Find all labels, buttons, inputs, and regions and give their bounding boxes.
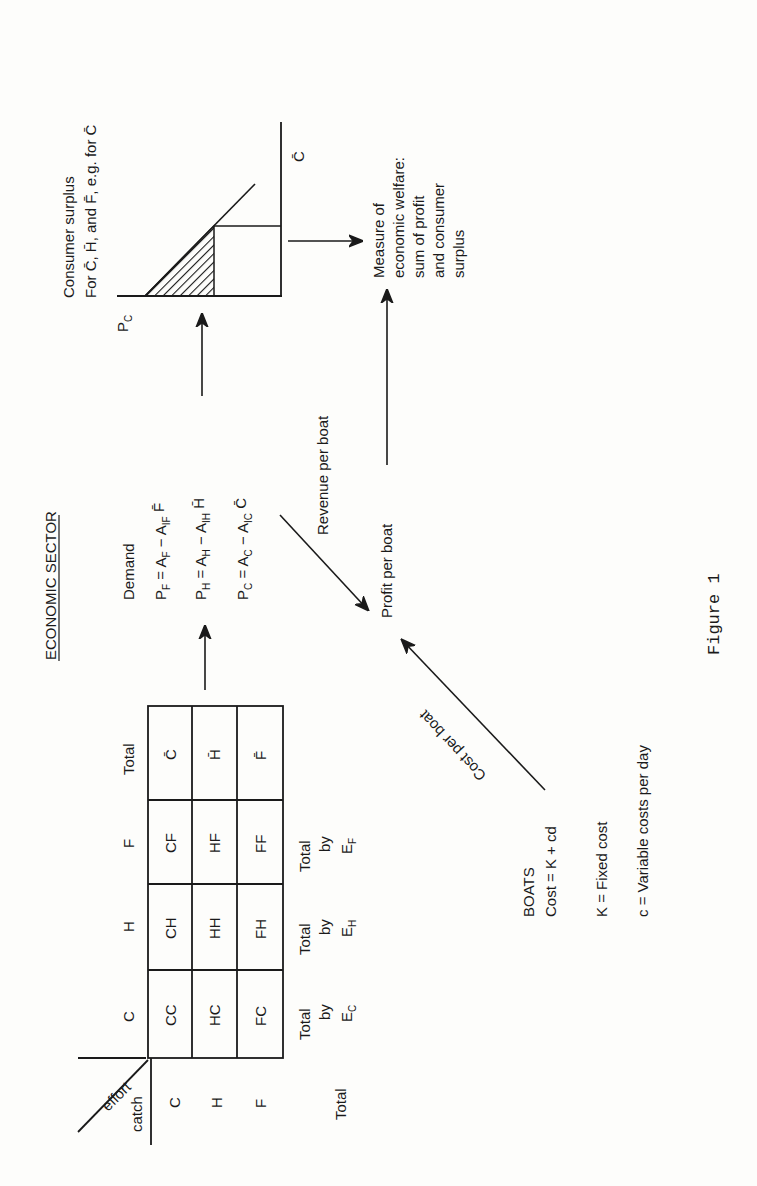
- svg-text:EC: EC: [338, 1005, 358, 1022]
- demand-eq-c: PC = AC − AIC C̄: [232, 498, 254, 600]
- quantity-axis-label: C̄: [290, 151, 307, 162]
- cell-c-total: C̄: [162, 749, 179, 760]
- cell-cf: CF: [162, 833, 179, 853]
- welfare-block: Measure of economic welfare: sum of prof…: [370, 157, 467, 278]
- svg-text:Measure of: Measure of: [370, 202, 387, 278]
- cost-label: Cost per boat: [415, 706, 489, 784]
- svg-text:surplus: surplus: [450, 230, 467, 278]
- variable-cost-def: c = Variable costs per day: [634, 745, 651, 917]
- boats-heading: BOATS: [520, 867, 537, 917]
- profit-label: Profit per boat: [378, 523, 395, 618]
- fixed-cost-def: K = Fixed cost: [593, 821, 610, 917]
- svg-text:Total: Total: [296, 840, 313, 872]
- price-axis-label: PC: [114, 315, 134, 332]
- cell-fh: FH: [252, 919, 269, 939]
- cell-hf: HF: [206, 833, 223, 853]
- catch-effort-matrix: effort catch C H F Total C H F CC CH CF …: [78, 706, 358, 1145]
- svg-text:by: by: [316, 1004, 333, 1020]
- svg-text:sum of profit: sum of profit: [410, 195, 427, 278]
- demand-eq-h: PH = AH − AIH H̄: [190, 498, 212, 600]
- svg-text:by: by: [316, 919, 333, 935]
- economic-sector-diagram: ECONOMIC SECTOR effort catch C H F Total…: [0, 0, 757, 1186]
- cell-hc: HC: [206, 1004, 223, 1026]
- boats-formula: Cost = K + cd: [542, 826, 559, 917]
- surplus-title: Consumer surplus: [60, 176, 77, 298]
- catch-label: catch: [128, 1096, 145, 1132]
- cell-fc: FC: [252, 1006, 269, 1026]
- svg-text:EF: EF: [338, 838, 358, 854]
- consumer-surplus-chart: Consumer surplus For C̄, H̄, and F̄, e.g…: [60, 122, 307, 332]
- col-header-f: F: [120, 839, 137, 848]
- svg-text:EH: EH: [338, 920, 358, 937]
- row-header-h: H: [208, 1097, 225, 1108]
- cell-cc: CC: [162, 1004, 179, 1026]
- svg-text:Total: Total: [296, 1008, 313, 1040]
- cell-f-total: F̄: [252, 751, 269, 760]
- demand-heading: Demand: [120, 543, 137, 600]
- title-text: ECONOMIC SECTOR: [42, 511, 59, 660]
- demand-eq-f: PF = AF − AIF F̄: [150, 503, 172, 600]
- col-header-h: H: [120, 921, 137, 932]
- figure-caption: Figure 1: [705, 573, 724, 655]
- demand-block: Demand PF = AF − AIF F̄ PH = AH − AIH H̄…: [120, 498, 254, 600]
- cell-hh: HH: [206, 917, 223, 939]
- svg-text:Total: Total: [296, 923, 313, 955]
- cell-ch: CH: [162, 917, 179, 939]
- svg-text:economic welfare:: economic welfare:: [390, 157, 407, 278]
- title: ECONOMIC SECTOR: [42, 511, 59, 661]
- boats-block: BOATS Cost = K + cd K = Fixed cost c = V…: [520, 745, 651, 917]
- col-header-total: Total: [120, 743, 137, 775]
- cell-h-total: H̄: [206, 749, 223, 760]
- revenue-label: Revenue per boat: [314, 415, 331, 535]
- surplus-subtitle: For C̄, H̄, and F̄, e.g. for C̄: [82, 124, 99, 298]
- total-row-label: Total: [332, 1088, 349, 1120]
- effort-total-c: Total by EC: [296, 1004, 358, 1040]
- row-header-c: C: [166, 1097, 183, 1108]
- effort-total-h: Total by EH: [296, 919, 358, 955]
- row-header-f: F: [252, 1099, 269, 1108]
- effort-total-f: Total by EF: [296, 836, 358, 872]
- cell-ff: FF: [252, 835, 269, 853]
- svg-text:and consumer: and consumer: [430, 183, 447, 278]
- svg-text:by: by: [316, 836, 333, 852]
- col-header-c: C: [120, 1011, 137, 1022]
